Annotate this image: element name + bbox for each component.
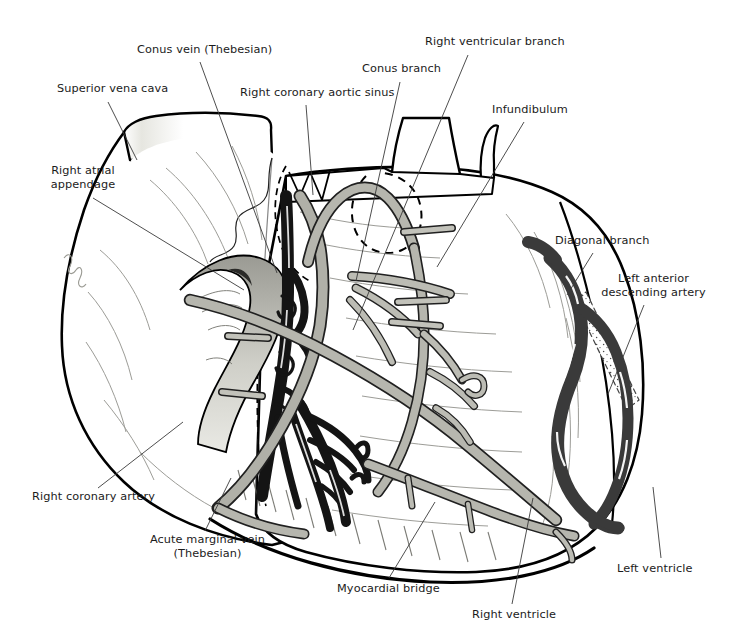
label-right-coronary-aortic-sinus: Right coronary aortic sinus — [240, 86, 395, 100]
pulmonary-cusp-flap — [481, 126, 498, 181]
heart-anatomy-figure: Superior vena cava Conus vein (Thebesian… — [0, 0, 729, 643]
label-right-ventricular-branch-text: Right ventricular branch — [425, 35, 565, 48]
label-conus-branch-text: Conus branch — [362, 62, 441, 75]
label-acute-marginal-vein-line2: (Thebesian) — [145, 547, 270, 561]
label-right-atrial-appendage: Right atrial appendage — [40, 164, 126, 192]
label-right-ventricular-branch: Right ventricular branch — [425, 35, 565, 49]
label-left-ventricle-text: Left ventricle — [617, 562, 693, 575]
label-diagonal-branch-text: Diagonal branch — [555, 234, 649, 247]
label-right-ventricle-text: Right ventricle — [472, 608, 556, 621]
label-acute-marginal-vein-line1: Acute marginal vein — [145, 533, 270, 547]
label-superior-vena-cava-text: Superior vena cava — [57, 82, 168, 95]
label-infundibulum: Infundibulum — [492, 103, 568, 117]
label-right-coronary-artery-text: Right coronary artery — [32, 490, 155, 503]
label-right-atrial-appendage-text: Right atrial appendage — [51, 164, 116, 191]
label-right-coronary-artery: Right coronary artery — [32, 490, 155, 504]
label-infundibulum-text: Infundibulum — [492, 103, 568, 116]
label-left-ventricle: Left ventricle — [617, 562, 693, 576]
label-left-anterior-descending-artery: Left anterior descending artery — [601, 272, 706, 300]
leader-left-ventricle — [653, 487, 661, 558]
label-myocardial-bridge-text: Myocardial bridge — [337, 582, 440, 595]
label-conus-vein-thebesian: Conus vein (Thebesian) — [137, 43, 272, 57]
label-right-coronary-aortic-sinus-text: Right coronary aortic sinus — [240, 86, 395, 99]
label-myocardial-bridge: Myocardial bridge — [337, 582, 440, 596]
label-right-ventricle: Right ventricle — [472, 608, 556, 622]
label-diagonal-branch: Diagonal branch — [555, 234, 649, 248]
label-conus-branch: Conus branch — [362, 62, 441, 76]
pulmonary-trunk — [392, 118, 460, 174]
label-left-anterior-descending-artery-text: Left anterior descending artery — [601, 272, 706, 299]
label-superior-vena-cava: Superior vena cava — [57, 82, 168, 96]
label-conus-vein-thebesian-text: Conus vein (Thebesian) — [137, 43, 272, 56]
label-acute-marginal-vein-thebesian: Acute marginal vein (Thebesian) — [145, 533, 270, 561]
